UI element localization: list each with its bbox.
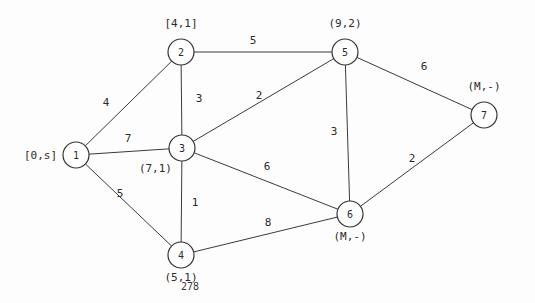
- node-id-1: 1: [73, 150, 79, 161]
- node-label-7: (M,-): [467, 80, 500, 93]
- graph-node-5: 5: [332, 39, 358, 65]
- edge-weight-3-4: 1: [192, 196, 199, 209]
- node-label-3: (7,1): [139, 162, 172, 175]
- edge-2-3: [181, 65, 182, 135]
- node-id-6: 6: [347, 209, 353, 220]
- edge-weight-3-6: 6: [264, 160, 271, 173]
- edge-5-7: [357, 57, 472, 109]
- edge-3-5: [193, 59, 334, 142]
- node-id-2: 2: [178, 47, 184, 58]
- shortest-path-graph-diagram: 475352168362 1234567 [0,s][4,1](7,1)(5,1…: [0, 0, 535, 303]
- node-labels-layer: [0,s][4,1](7,1)(5,1)(9,2)(M,-)(M,-): [24, 17, 501, 284]
- edge-weight-5-6: 3: [331, 125, 338, 138]
- graph-node-4: 4: [168, 242, 194, 268]
- edge-5-6: [345, 65, 349, 201]
- edge-weight-1-2: 4: [103, 96, 110, 109]
- node-label-5: (9,2): [328, 17, 361, 30]
- graph-node-2: 2: [168, 39, 194, 65]
- graph-node-6: 6: [337, 201, 363, 227]
- figure-page: 475352168362 1234567 [0,s][4,1](7,1)(5,1…: [0, 0, 535, 303]
- graph-node-3: 3: [169, 135, 195, 161]
- edge-weight-3-5: 2: [256, 89, 263, 102]
- edge-weight-5-7: 6: [421, 60, 428, 73]
- edge-3-4: [181, 161, 182, 242]
- edge-6-7: [360, 123, 473, 207]
- graph-node-7: 7: [471, 102, 497, 128]
- node-label-2: [4,1]: [164, 17, 197, 30]
- node-id-5: 5: [342, 47, 348, 58]
- edge-weight-1-3: 7: [125, 132, 132, 145]
- node-id-3: 3: [179, 143, 185, 154]
- node-id-7: 7: [481, 110, 487, 121]
- node-label-6: (M,-): [333, 230, 366, 243]
- edge-weight-4-6: 8: [265, 216, 272, 229]
- edge-weight-1-4: 5: [117, 187, 124, 200]
- node-label-1: [0,s]: [24, 149, 57, 162]
- edge-1-3: [89, 149, 169, 154]
- page-number: 278: [181, 281, 199, 292]
- node-id-4: 4: [178, 250, 184, 261]
- edge-weight-2-5: 5: [250, 34, 257, 47]
- edge-weight-6-7: 2: [409, 152, 416, 165]
- edge-weight-2-3: 3: [196, 92, 203, 105]
- edge-weights-layer: 475352168362: [103, 34, 428, 229]
- edge-1-4: [85, 164, 171, 246]
- graph-node-1: 1: [63, 142, 89, 168]
